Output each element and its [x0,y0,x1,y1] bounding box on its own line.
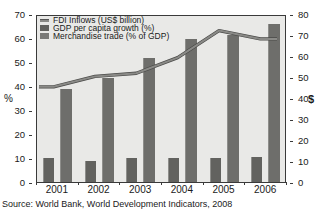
y-axis-right-tick-mark [290,120,293,121]
y-axis-right-tick-label: 40 [298,94,309,104]
y-axis-left-tick-label: 20 [14,130,25,140]
y-axis-right: 01020304050607080 [290,0,319,215]
y-axis-right-tick-mark [290,162,293,163]
y-axis-right-tick-mark [290,15,293,16]
x-axis: 200120022003200420052006 [36,185,286,199]
y-axis-right-tick-label: 20 [298,136,309,146]
x-axis-tick-label: 2004 [171,185,193,195]
y-axis-left-tick-label: 70 [14,10,25,20]
y-axis-left-tick-label: 50 [14,58,25,68]
y-axis-left-tick-label: 60 [14,34,25,44]
legend-item: Merchandise trade (% of GDP) [40,33,169,40]
y-axis-right-tick-label: 0 [298,178,303,188]
y-axis-left-tick-label: 10 [14,154,25,164]
x-axis-tick-mark [161,182,162,185]
y-axis-left-tick-mark [29,111,32,112]
fdi-inflows-line-series [37,16,285,183]
x-axis-tick-label: 2003 [129,185,151,195]
x-axis-tick-mark [119,182,120,185]
y-axis-left-title: % [4,93,13,104]
y-axis-left-tick-mark [29,183,32,184]
y-axis-left-tick-label: 0 [20,178,25,188]
x-axis-tick-label: 2002 [87,185,109,195]
y-axis-right-tick-mark [290,78,293,79]
y-axis-right-tick-label: 50 [298,73,309,83]
y-axis-left: 010203040506070 [0,0,32,215]
source-note: Source: World Bank, World Development In… [2,199,232,210]
y-axis-right-tick-mark [290,183,293,184]
y-axis-right-title: $ [308,93,314,105]
x-axis-tick-label: 2005 [212,185,234,195]
legend-item-label: Merchandise trade (% of GDP) [53,33,169,40]
x-axis-tick-mark [286,182,287,185]
y-axis-left-tick-mark [29,15,32,16]
legend-square-swatch-icon [40,33,49,39]
y-axis-left-tick-label: 40 [14,82,25,92]
y-axis-right-tick-mark [290,141,293,142]
y-axis-left-tick-mark [29,63,32,64]
chart-legend: FDI Inflows (US$ billion)GDP per capita … [40,17,169,40]
y-axis-right-tick-label: 60 [298,52,309,62]
y-axis-left-tick-mark [29,159,32,160]
x-axis-tick-label: 2006 [254,185,276,195]
x-axis-tick-mark [244,182,245,185]
y-axis-right-tick-label: 30 [298,115,309,125]
y-axis-left-tick-mark [29,39,32,40]
y-axis-right-tick-label: 10 [298,157,309,167]
y-axis-right-tick-label: 70 [298,31,309,41]
legend-line-swatch-icon [40,19,49,22]
y-axis-left-tick-label: 30 [14,106,25,116]
y-axis-right-tick-mark [290,99,293,100]
chart-figure: 010203040506070 % 01020304050607080 $ 20… [0,0,319,215]
x-axis-tick-mark [203,182,204,185]
y-axis-right-tick-mark [290,57,293,58]
y-axis-right-tick-mark [290,36,293,37]
y-axis-left-tick-mark [29,87,32,88]
y-axis-left-tick-mark [29,135,32,136]
x-axis-tick-label: 2001 [46,185,68,195]
y-axis-right-tick-label: 80 [298,10,309,20]
x-axis-tick-mark [78,182,79,185]
x-axis-tick-mark [36,182,37,185]
legend-square-swatch-icon [40,25,49,31]
